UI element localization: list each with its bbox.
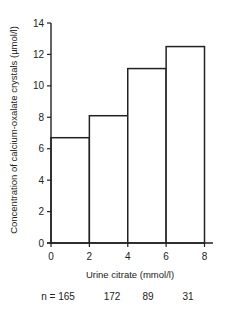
sample-size-label: 89 xyxy=(142,291,154,302)
sample-size-label: 31 xyxy=(182,291,194,302)
x-tick-label: 6 xyxy=(163,251,169,262)
y-tick-label: 14 xyxy=(33,18,45,29)
x-ticks-group: 02468 xyxy=(48,243,208,262)
histogram-bar-1 xyxy=(51,138,89,243)
y-tick-label: 8 xyxy=(38,112,44,123)
sample-size-label: 172 xyxy=(104,291,121,302)
x-axis-title: Urine citrate (mmol/l) xyxy=(86,269,174,280)
y-tick-label: 10 xyxy=(33,80,45,91)
x-tick-label: 0 xyxy=(48,251,54,262)
histogram-chart: 02468101214 02468 Concentration of calci… xyxy=(0,0,226,319)
x-tick-label: 2 xyxy=(87,251,93,262)
x-tick-label: 4 xyxy=(125,251,131,262)
bars-group xyxy=(51,47,205,243)
y-tick-label: 0 xyxy=(38,238,44,249)
y-tick-label: 6 xyxy=(38,143,44,154)
y-tick-label: 12 xyxy=(33,49,45,60)
sample-size-labels: n = 1651728931 xyxy=(41,291,194,302)
y-axis-title: Concentration of calcium-oxalate crystal… xyxy=(8,26,19,234)
histogram-bar-2 xyxy=(89,116,127,243)
histogram-bar-3 xyxy=(128,69,166,243)
y-tick-label: 4 xyxy=(38,175,44,186)
sample-size-label: n = 165 xyxy=(41,291,75,302)
y-tick-label: 2 xyxy=(38,206,44,217)
histogram-bar-4 xyxy=(166,47,204,243)
y-ticks-group: 02468101214 xyxy=(33,18,51,249)
x-tick-label: 8 xyxy=(202,251,208,262)
